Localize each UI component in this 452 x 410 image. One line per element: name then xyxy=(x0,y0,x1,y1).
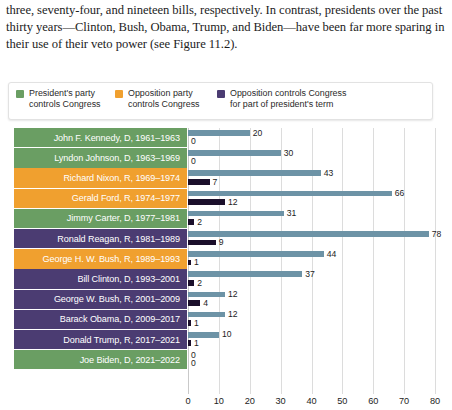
bar-value-label: 0 xyxy=(191,157,196,166)
veto-bar-chart: John F. Kennedy, D, 1961–1963200Lyndon J… xyxy=(0,128,452,410)
chart-row: Jimmy Carter, D, 1977–1981312 xyxy=(0,209,452,229)
chart-row: John F. Kennedy, D, 1961–1963200 xyxy=(0,128,452,148)
row-label-president: Gerald Ford, R, 1974–1977 xyxy=(14,189,187,208)
legend-swatch-purple xyxy=(217,90,225,98)
chart-row: George W. Bush, R, 2001–2009124 xyxy=(0,290,452,310)
bar-value-label: 78 xyxy=(432,230,442,239)
chart-row: Ronald Reagan, R, 1981–1989789 xyxy=(0,229,452,249)
row-plot: 441 xyxy=(188,249,442,269)
row-plot: 6612 xyxy=(188,189,442,209)
chart-legend: President's party controls Congress Oppo… xyxy=(8,82,433,120)
bar-value-label: 9 xyxy=(219,238,224,247)
bar-bar-primary xyxy=(188,191,392,197)
bar-value-label: 1 xyxy=(194,339,199,348)
bar-value-label: 1 xyxy=(194,319,199,328)
bar-value-label: 66 xyxy=(395,189,405,198)
bar-value-label: 12 xyxy=(228,290,238,299)
bar-value-label: 10 xyxy=(222,330,232,339)
chart-rows: John F. Kennedy, D, 1961–1963200Lyndon J… xyxy=(0,128,452,370)
bar-value-label: 44 xyxy=(327,250,337,259)
legend-item-opposition-partial: Opposition controls Congress for part of… xyxy=(217,88,346,111)
body-paragraph: three, seventy-four, and nineteen bills,… xyxy=(6,2,446,54)
bar-bar-secondary xyxy=(188,179,210,185)
bar-bar-primary xyxy=(188,170,321,176)
row-label-president: Lyndon Johnson, D, 1963–1969 xyxy=(14,148,187,167)
bar-value-label: 7 xyxy=(213,178,218,187)
row-plot: 312 xyxy=(188,209,442,229)
row-label-president: John F. Kennedy, D, 1961–1963 xyxy=(14,128,187,147)
x-tick-60: 60 xyxy=(368,396,378,406)
x-tick-80: 80 xyxy=(430,396,440,406)
row-plot: 789 xyxy=(188,229,442,249)
chart-row: Donald Trump, R, 2017–2021101 xyxy=(0,330,452,350)
bar-bar-primary xyxy=(188,312,225,318)
bar-value-label: 2 xyxy=(197,218,202,227)
bar-value-label: 1 xyxy=(194,258,199,267)
chart-row: Bill Clinton, D, 1993–2001372 xyxy=(0,269,452,289)
row-label-president: George W. Bush, R, 2001–2009 xyxy=(14,290,187,309)
x-tick-30: 30 xyxy=(276,396,286,406)
row-plot: 00 xyxy=(188,350,442,370)
chart-row: Gerald Ford, R, 1974–19776612 xyxy=(0,189,452,209)
x-tick-40: 40 xyxy=(306,396,316,406)
row-label-president: Richard Nixon, R, 1969–1974 xyxy=(14,168,187,187)
row-label-president: Joe Biden, D, 2021–2022 xyxy=(14,350,187,369)
bar-bar-primary xyxy=(188,211,284,217)
bar-value-label: 12 xyxy=(228,310,238,319)
bar-value-label: 0 xyxy=(191,359,196,368)
row-plot: 101 xyxy=(188,330,442,350)
row-label-president: George H. W. Bush, R, 1989–1993 xyxy=(14,249,187,268)
row-plot: 300 xyxy=(188,148,442,168)
bar-value-label: 0 xyxy=(191,137,196,146)
row-plot: 121 xyxy=(188,310,442,330)
bar-bar-secondary xyxy=(188,300,200,306)
row-plot: 437 xyxy=(188,168,442,188)
bar-bar-secondary xyxy=(188,340,191,346)
x-tick-10: 10 xyxy=(214,396,224,406)
row-plot: 124 xyxy=(188,290,442,310)
bar-bar-primary xyxy=(188,150,281,156)
bar-bar-secondary xyxy=(188,260,191,266)
bar-bar-primary xyxy=(188,251,324,257)
bar-value-label: 30 xyxy=(284,149,294,158)
row-label-president: Barack Obama, D, 2009–2017 xyxy=(14,310,187,329)
bar-value-label: 2 xyxy=(197,279,202,288)
bar-bar-secondary xyxy=(188,240,216,246)
bar-value-label: 43 xyxy=(324,169,334,178)
bar-value-label: 37 xyxy=(305,270,315,279)
row-label-president: Ronald Reagan, R, 1981–1989 xyxy=(14,229,187,248)
x-tick-50: 50 xyxy=(337,396,347,406)
bar-bar-secondary xyxy=(188,280,194,286)
bar-bar-secondary xyxy=(188,320,191,326)
legend-item-president-party: President's party controls Congress xyxy=(16,88,101,111)
bar-value-label: 20 xyxy=(253,129,263,138)
row-plot: 200 xyxy=(188,128,442,148)
bar-bar-primary xyxy=(188,271,302,277)
bar-value-label: 31 xyxy=(287,209,297,218)
chart-row: Joe Biden, D, 2021–202200 xyxy=(0,350,452,370)
bar-bar-secondary xyxy=(188,219,194,225)
row-label-president: Jimmy Carter, D, 1977–1981 xyxy=(14,209,187,228)
x-tick-20: 20 xyxy=(245,396,255,406)
row-label-president: Bill Clinton, D, 1993–2001 xyxy=(14,269,187,288)
legend-swatch-green xyxy=(16,90,24,98)
x-tick-70: 70 xyxy=(399,396,409,406)
bar-value-label: 12 xyxy=(228,198,238,207)
chart-row: George H. W. Bush, R, 1989–1993441 xyxy=(0,249,452,269)
x-tick-0: 0 xyxy=(185,396,190,406)
chart-row: Barack Obama, D, 2009–2017121 xyxy=(0,310,452,330)
legend-label-opposition-partial: Opposition controls Congress for part of… xyxy=(230,88,346,111)
bar-value-label: 4 xyxy=(203,299,208,308)
bar-bar-primary xyxy=(188,332,219,338)
chart-row: Lyndon Johnson, D, 1963–1969300 xyxy=(0,148,452,168)
row-label-president: Donald Trump, R, 2017–2021 xyxy=(14,330,187,349)
legend-swatch-orange xyxy=(115,90,123,98)
paragraph-text: three, seventy-four, and nineteen bills,… xyxy=(6,2,446,54)
chart-row: Richard Nixon, R, 1969–1974437 xyxy=(0,168,452,188)
legend-item-opposition-party: Opposition party controls Congress xyxy=(115,88,200,111)
bar-bar-primary xyxy=(188,130,250,136)
row-plot: 372 xyxy=(188,269,442,289)
bar-bar-primary xyxy=(188,292,225,298)
chart-x-axis: 01020304050607080 xyxy=(188,394,435,410)
bar-bar-secondary xyxy=(188,199,225,205)
